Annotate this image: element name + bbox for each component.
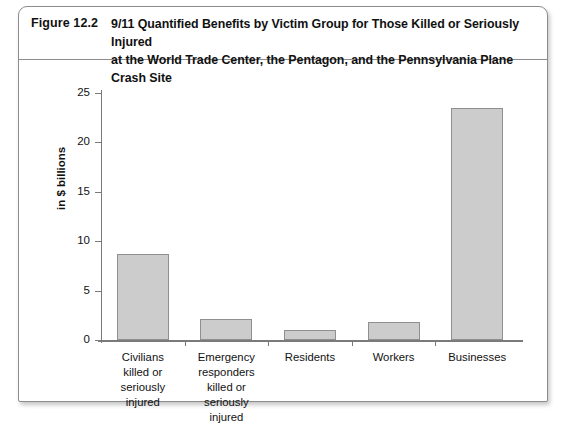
bar bbox=[368, 322, 420, 340]
y-axis-tick-label: 20 bbox=[77, 135, 90, 147]
bar bbox=[451, 108, 503, 340]
x-axis-category-label-line: Emergency bbox=[185, 350, 269, 365]
y-axis-tick: 20 bbox=[95, 142, 102, 143]
x-axis-category-label-line: injured bbox=[185, 410, 269, 425]
x-axis-category-label-line: killed or bbox=[101, 365, 185, 380]
figure-frame: Figure 12.2 9/11 Quantified Benefits by … bbox=[18, 6, 548, 402]
x-axis-category-label: Civilianskilled orseriouslyinjured bbox=[101, 350, 185, 410]
figure-number: Figure 12.2 bbox=[31, 16, 98, 30]
figure-caption-line-1: 9/11 Quantified Benefits by Victim Group… bbox=[111, 17, 519, 49]
bar bbox=[200, 319, 252, 340]
x-axis-line bbox=[98, 340, 523, 342]
x-axis-category-label: Businesses bbox=[435, 350, 519, 365]
y-axis-tick: 15 bbox=[95, 192, 102, 193]
x-axis-category-label-line: Residents bbox=[268, 350, 352, 365]
y-axis-tick: 0 bbox=[95, 340, 102, 341]
x-axis-tick bbox=[185, 340, 186, 346]
x-axis-category-label: Residents bbox=[268, 350, 352, 365]
y-axis-tick-label: 15 bbox=[77, 185, 90, 197]
y-axis-tick-label: 5 bbox=[84, 284, 90, 296]
x-axis-tick bbox=[268, 340, 269, 346]
x-axis-category-label-line: seriously bbox=[185, 395, 269, 410]
x-axis-category-label-line: seriously bbox=[101, 380, 185, 395]
y-axis-tick: 25 bbox=[95, 93, 102, 94]
x-axis-category-label-line: Businesses bbox=[435, 350, 519, 365]
page-footer-text bbox=[12, 424, 557, 437]
x-axis-tick bbox=[435, 340, 436, 346]
bar-chart: in $ billions 0510152025 Civilianskilled… bbox=[19, 60, 549, 402]
x-axis-category-label-line: Civilians bbox=[101, 350, 185, 365]
x-axis-category-label: Emergencyresponderskilled orseriouslyinj… bbox=[185, 350, 269, 425]
y-axis-tick: 10 bbox=[95, 241, 102, 242]
y-axis-tick-label: 0 bbox=[84, 333, 90, 345]
x-axis-category-label-line: injured bbox=[101, 395, 185, 410]
bar bbox=[117, 254, 169, 340]
x-axis-tick bbox=[352, 340, 353, 346]
x-axis-category-label-line: Workers bbox=[352, 350, 436, 365]
x-axis-category-label-line: killed or bbox=[185, 380, 269, 395]
y-axis-tick-label: 25 bbox=[77, 86, 90, 98]
y-axis-line bbox=[101, 90, 102, 343]
x-axis-category-label: Workers bbox=[352, 350, 436, 365]
y-axis-title: in $ billions bbox=[55, 147, 67, 210]
figure-title-block: Figure 12.2 9/11 Quantified Benefits by … bbox=[19, 7, 547, 60]
bar bbox=[284, 330, 336, 340]
x-axis-category-label-line: responders bbox=[185, 365, 269, 380]
y-axis-tick: 5 bbox=[95, 291, 102, 292]
y-axis-tick-label: 10 bbox=[77, 234, 90, 246]
